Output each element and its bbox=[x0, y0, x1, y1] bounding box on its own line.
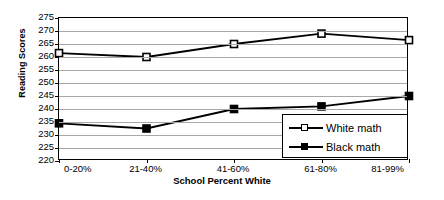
legend-item-white-math: White math bbox=[289, 118, 407, 137]
y-tick-label: 240 bbox=[20, 103, 54, 113]
x-tick-label: 21-40% bbox=[129, 163, 162, 175]
y-tick-label: 270 bbox=[20, 25, 54, 35]
x-tick-label: 41-60% bbox=[217, 163, 250, 175]
y-tick-label: 230 bbox=[20, 129, 54, 139]
x-axis-title: School Percent White bbox=[0, 175, 444, 186]
data-point-marker bbox=[143, 125, 150, 132]
y-tick-label: 235 bbox=[20, 116, 54, 126]
y-tick-label: 245 bbox=[20, 90, 54, 100]
chart-legend: White math Black math bbox=[282, 114, 408, 158]
gridline bbox=[59, 83, 407, 84]
data-point-marker bbox=[56, 120, 63, 127]
y-tick-mark bbox=[55, 122, 59, 123]
y-tick-label: 275 bbox=[20, 12, 54, 22]
legend-label: White math bbox=[323, 122, 382, 134]
y-tick-mark bbox=[55, 135, 59, 136]
y-tick-label: 255 bbox=[20, 64, 54, 74]
y-tick-mark bbox=[55, 57, 59, 58]
gridline bbox=[59, 44, 407, 45]
gridline bbox=[59, 96, 407, 97]
open-square-marker-icon bbox=[289, 122, 323, 134]
gridline bbox=[59, 57, 407, 58]
legend-label: Black math bbox=[323, 141, 380, 153]
y-tick-mark bbox=[55, 18, 59, 19]
y-tick-mark bbox=[55, 148, 59, 149]
gridline bbox=[59, 109, 407, 110]
y-tick-mark bbox=[55, 31, 59, 32]
y-tick-label: 225 bbox=[20, 142, 54, 152]
filled-square-marker-icon bbox=[289, 141, 323, 153]
y-tick-mark bbox=[55, 109, 59, 110]
y-tick-label: 250 bbox=[20, 77, 54, 87]
x-tick-label: 61-80% bbox=[304, 163, 337, 175]
gridline bbox=[59, 70, 407, 71]
y-tick-label: 265 bbox=[20, 38, 54, 48]
y-tick-mark bbox=[55, 70, 59, 71]
y-tick-mark bbox=[55, 96, 59, 97]
gridline bbox=[59, 31, 407, 32]
data-point-marker bbox=[406, 37, 413, 44]
reading-scores-line-chart: Reading Scores 2752702652602552502452402… bbox=[0, 0, 444, 200]
data-point-marker bbox=[56, 50, 63, 57]
y-tick-mark bbox=[55, 83, 59, 84]
x-tick-label: 81-99% bbox=[371, 163, 404, 175]
y-tick-mark bbox=[55, 44, 59, 45]
y-tick-label: 260 bbox=[20, 51, 54, 61]
x-tick-label: 0-20% bbox=[64, 163, 91, 175]
legend-item-black-math: Black math bbox=[289, 137, 407, 156]
